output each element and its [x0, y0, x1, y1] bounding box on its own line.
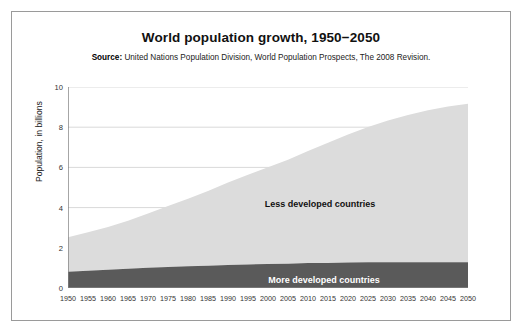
x-tick-label: 2015 [320, 294, 336, 303]
x-tick-label: 1990 [220, 294, 236, 303]
x-tick-label: 1995 [240, 294, 256, 303]
x-tick-label: 2005 [280, 294, 296, 303]
y-tick-label: 8 [59, 123, 63, 132]
y-tick-label: 10 [55, 83, 63, 92]
y-axis-label: Population, in billions [34, 101, 44, 182]
x-tick-label: 2045 [440, 294, 456, 303]
y-tick-label: 4 [59, 203, 63, 212]
x-tick-label: 1965 [120, 294, 136, 303]
x-tick-label: 1970 [140, 294, 156, 303]
y-tick-label: 6 [59, 163, 63, 172]
x-tick-label: 1950 [60, 294, 76, 303]
source-label: Source: [92, 53, 122, 62]
x-tick-label: 2010 [300, 294, 316, 303]
x-tick-label: 2050 [460, 294, 476, 303]
series-label-less-developed: Less developed countries [265, 199, 376, 209]
x-tick-label: 1985 [200, 294, 216, 303]
area-less-developed [68, 104, 468, 272]
x-tick-label: 2025 [360, 294, 376, 303]
x-tick-label: 1955 [80, 294, 96, 303]
x-tick-label: 2030 [380, 294, 396, 303]
chart-figure: World population growth, 1950−2050 Sourc… [11, 11, 511, 321]
page-title: World population growth, 1950−2050 [12, 30, 510, 45]
source-caption: Source: United Nations Population Divisi… [12, 53, 510, 62]
x-tick-label: 1980 [180, 294, 196, 303]
source-text: United Nations Population Division, Worl… [122, 53, 430, 62]
x-tick-label: 1975 [160, 294, 176, 303]
series-label-more-developed: More developed countries [268, 275, 380, 285]
y-tick-label: 2 [59, 243, 63, 252]
x-tick-label: 2035 [400, 294, 416, 303]
x-tick-label: 2020 [340, 294, 356, 303]
x-tick-label: 2000 [260, 294, 276, 303]
plot-wrapper: Population, in billions 0246810 19501955… [68, 87, 468, 288]
plot-area [68, 87, 468, 288]
y-tick-label: 0 [59, 284, 63, 293]
x-tick-label: 2040 [420, 294, 436, 303]
x-tick-label: 1960 [100, 294, 116, 303]
